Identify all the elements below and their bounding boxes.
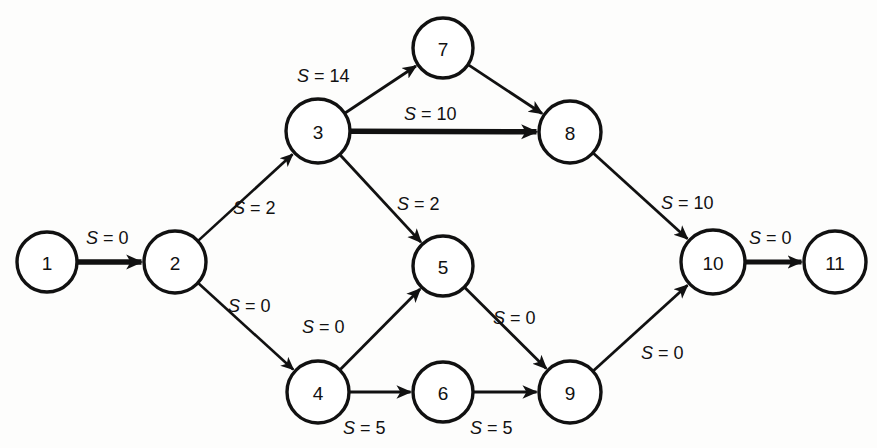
node-10[interactable]: 10 <box>681 230 745 294</box>
edge-label-3-7: S = 14 <box>297 66 350 86</box>
node-label-4: 4 <box>313 383 324 404</box>
node-7[interactable]: 7 <box>413 18 473 78</box>
edge-label-9-10: S = 0 <box>641 343 684 363</box>
node-3[interactable]: 3 <box>286 99 350 163</box>
node-label-6: 6 <box>438 383 449 404</box>
edge-label-2-3: S = 2 <box>233 198 276 218</box>
node-label-8: 8 <box>565 123 576 144</box>
node-4[interactable]: 4 <box>287 361 349 423</box>
edge-label-4-5: S = 0 <box>302 317 345 337</box>
node-label-1: 1 <box>42 253 53 274</box>
node-2[interactable]: 2 <box>144 231 206 293</box>
edge-label-1-2: S = 0 <box>86 228 129 248</box>
node-11[interactable]: 11 <box>804 231 866 293</box>
edge-4-to-5 <box>341 289 421 369</box>
edge-7-to-8 <box>469 65 542 113</box>
edge-5-to-9 <box>465 288 546 369</box>
node-label-11: 11 <box>825 253 845 274</box>
edge-label-5-9: S = 0 <box>493 308 536 328</box>
node-label-9: 9 <box>565 383 576 404</box>
edge-label-6-9: S = 5 <box>470 418 513 438</box>
edge-label-3-8: S = 10 <box>404 104 457 124</box>
node-label-2: 2 <box>170 253 181 274</box>
edge-label-8-10: S = 10 <box>661 193 714 213</box>
node-5[interactable]: 5 <box>413 236 473 296</box>
node-label-5: 5 <box>438 257 449 278</box>
network-graph-canvas: 1234567891011 S = 0S = 2S = 0S = 14S = 1… <box>0 0 877 448</box>
nodes-layer: 1234567891011 <box>17 18 866 423</box>
node-8[interactable]: 8 <box>539 101 601 163</box>
node-6[interactable]: 6 <box>413 362 473 422</box>
node-label-3: 3 <box>313 122 324 143</box>
node-9[interactable]: 9 <box>539 361 601 423</box>
node-1[interactable]: 1 <box>17 232 77 292</box>
node-label-10: 10 <box>702 253 723 274</box>
edge-label-10-11: S = 0 <box>749 228 792 248</box>
edge-label-3-5: S = 2 <box>397 194 440 214</box>
node-label-7: 7 <box>438 39 449 60</box>
edge-3-to-8 <box>351 131 537 132</box>
edge-label-2-4: S = 0 <box>228 296 271 316</box>
network-diagram: 1234567891011 S = 0S = 2S = 0S = 14S = 1… <box>0 0 877 448</box>
edge-label-4-6: S = 5 <box>343 418 386 438</box>
